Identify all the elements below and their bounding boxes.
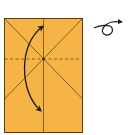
turn-over-arrow-icon [94, 22, 121, 35]
origami-diagram [0, 0, 131, 135]
center-point [42, 58, 45, 61]
turn-over-arrowhead-icon [118, 19, 123, 24]
turn-over-symbol [94, 19, 123, 35]
